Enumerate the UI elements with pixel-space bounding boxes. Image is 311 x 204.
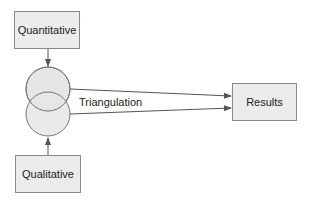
triangulation-arrow-lower [70,108,231,114]
qualitative-circle [26,92,70,136]
results-box: Results [232,83,297,121]
quantitative-label: Quantitative [18,24,77,36]
quantitative-box: Quantitative [14,11,80,49]
results-label: Results [246,96,283,108]
triangulation-label: Triangulation [79,96,142,108]
qualitative-box: Qualitative [15,155,81,193]
qualitative-label: Qualitative [22,168,74,180]
triangulation-arrow-upper [70,89,231,96]
